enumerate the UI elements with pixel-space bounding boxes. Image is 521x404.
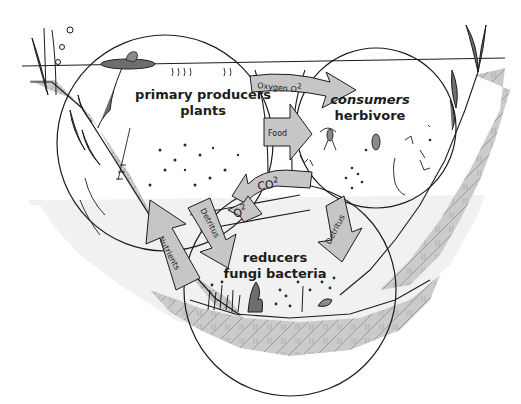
producers-label-line1: primary producers [135,87,271,102]
consumers-label-line1: consumers [330,92,410,107]
food-label: Food [268,129,287,138]
producers-label-line2: plants [180,103,226,118]
arrow-food: Food [264,104,312,160]
consumer-dots [345,139,432,190]
phytoplankton [149,144,240,187]
reducers-label-line1: reducers [243,250,308,265]
consumers-label-line2: herbivore [335,108,406,123]
reducers-label-line2: fungi bacteria [224,266,327,281]
pond-ecosystem-diagram: Oxygen O2 Food CO2 O2 Detritus Detritus … [0,0,521,404]
oxygen-sup: 2 [297,82,302,90]
